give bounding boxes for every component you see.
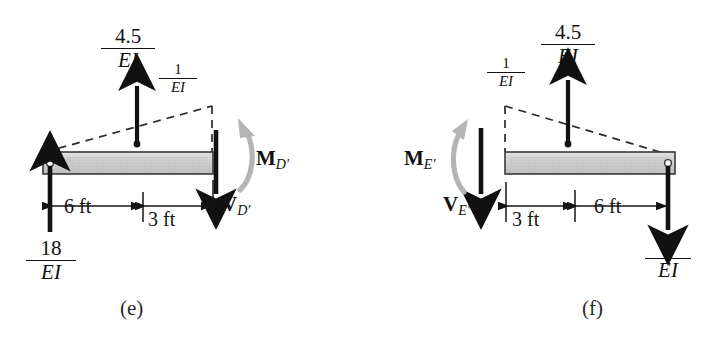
reaction-numerator-f: 6 — [644, 236, 692, 258]
dashed-load-triangle-e — [45, 106, 212, 152]
beam-texture-f — [510, 157, 670, 169]
reaction-numerator-e: 18 — [25, 238, 77, 260]
panel-e: 4.5 EI 1 EI 18 EI 6 ft 3 ft VD′ MD′ (e) — [0, 0, 360, 342]
moment-symbol-f: M — [404, 146, 424, 170]
panel-f: 4.5 EI 1 EI 6 EI 3 ft 6 ft VE′ ME′ (f) — [360, 0, 721, 342]
shear-symbol-f: V — [443, 192, 458, 216]
load-peak-numerator-e: 4.5 — [100, 26, 156, 48]
moment-symbol-e: M — [256, 146, 276, 170]
load-peak-denominator-f: EI — [540, 45, 596, 67]
pin-support-f — [665, 160, 672, 167]
load-peak-numerator-f: 4.5 — [540, 22, 596, 44]
reaction-denominator-f: EI — [644, 259, 692, 281]
resultant-load-arrow-f — [565, 80, 572, 147]
load-unit-numerator-e: 1 — [158, 62, 198, 78]
load-unit-denominator-f: EI — [486, 73, 526, 89]
load-peak-label-e: 4.5 EI — [100, 26, 156, 72]
moment-subscript-f: E′ — [424, 157, 436, 172]
pin-support-e — [47, 160, 54, 167]
shear-label-e: VD′ — [222, 192, 250, 219]
dashed-load-triangle-f — [505, 106, 660, 152]
figure-conjugate-beam-diagrams: 4.5 EI 1 EI 18 EI 6 ft 3 ft VD′ MD′ (e) — [0, 0, 721, 342]
shear-subscript-e: D′ — [237, 203, 250, 218]
load-unit-label-f: 1 EI — [486, 56, 526, 90]
beam-f — [505, 152, 675, 174]
dimension-label-6ft-f: 6 ft — [594, 195, 621, 218]
reaction-label-e: 18 EI — [25, 238, 77, 284]
beam-e — [43, 152, 213, 174]
shear-label-f: VE′ — [443, 192, 470, 219]
moment-label-e: MD′ — [256, 146, 289, 173]
dashed-hypotenuse-f — [505, 106, 660, 152]
panel-caption-e: (e) — [120, 296, 143, 321]
beam-texture-e — [48, 157, 208, 169]
moment-label-f: ME′ — [404, 146, 435, 173]
load-unit-numerator-f: 1 — [486, 56, 526, 72]
panel-e-graphics — [0, 0, 360, 342]
load-peak-denominator-e: EI — [100, 49, 156, 71]
resultant-load-arrow-e — [134, 86, 141, 147]
dimension-label-3ft-f: 3 ft — [512, 208, 539, 231]
moment-arrow-f — [452, 119, 468, 192]
load-unit-denominator-e: EI — [158, 79, 198, 95]
load-peak-label-f: 4.5 EI — [540, 22, 596, 68]
shear-subscript-f: E′ — [458, 203, 470, 218]
dashed-hypotenuse-e — [45, 106, 212, 152]
reaction-label-f: 6 EI — [644, 236, 692, 282]
load-unit-label-e: 1 EI — [158, 62, 198, 96]
panel-caption-f: (f) — [582, 296, 603, 321]
shear-symbol-e: V — [222, 192, 237, 216]
moment-arrow-e — [238, 118, 255, 190]
dimension-label-3ft-e: 3 ft — [148, 208, 175, 231]
dimension-label-6ft-e: 6 ft — [64, 195, 91, 218]
reaction-denominator-e: EI — [25, 261, 77, 283]
moment-subscript-e: D′ — [276, 157, 289, 172]
